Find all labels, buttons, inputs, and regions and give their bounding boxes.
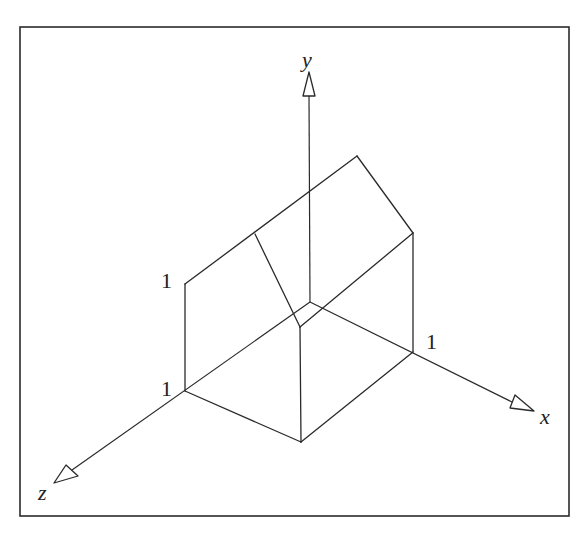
- front-right-rafter: [255, 234, 300, 327]
- x-axis-label: x: [539, 404, 550, 429]
- z-axis-line: [72, 302, 310, 470]
- y-axis-arrow-icon: [303, 72, 315, 96]
- ridge-and-front-rafter: [185, 156, 357, 284]
- figure-frame: [20, 27, 569, 516]
- z-axis-label: z: [37, 480, 47, 505]
- house-wireframe: [185, 156, 413, 442]
- front-right-wall-edge: [300, 327, 301, 442]
- x-tick-one: 1: [426, 329, 437, 354]
- front-base-edge: [185, 391, 301, 442]
- y-axis-label: y: [300, 47, 312, 72]
- back-right-rafter: [357, 156, 413, 233]
- axes: [54, 72, 534, 483]
- y-axis-line: [309, 95, 310, 302]
- house-diagram: y x z 1 1 1: [0, 0, 582, 533]
- x-axis-arrow-icon: [510, 395, 534, 411]
- y-tick-one: 1: [161, 268, 172, 293]
- x-axis-line: [310, 302, 512, 402]
- right-base-edge: [301, 352, 413, 442]
- z-tick-one: 1: [161, 376, 172, 401]
- right-eave: [300, 233, 413, 327]
